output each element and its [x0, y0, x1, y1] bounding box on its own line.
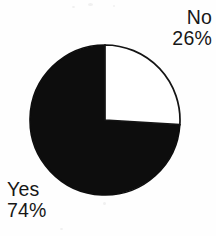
- pie-label-no-value: 26%: [172, 28, 212, 49]
- pie-graphic: [29, 44, 181, 196]
- pie-label-no: No 26%: [172, 7, 212, 49]
- pie-label-yes-value: 74%: [7, 200, 47, 221]
- pie-label-yes-name: Yes: [7, 179, 47, 200]
- pie-svg: [29, 44, 181, 196]
- pie-label-yes: Yes 74%: [7, 179, 47, 221]
- pie-slice-no: [105, 45, 180, 125]
- pie-label-no-name: No: [172, 7, 212, 28]
- pie-chart-figure: No 26% Yes 74%: [0, 0, 216, 236]
